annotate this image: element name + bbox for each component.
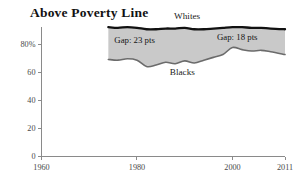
y-tick-label: 0 <box>31 152 35 161</box>
chart-canvas: Above Poverty Line 020406080% 1960198020… <box>0 0 297 179</box>
blacks-series-label: Blacks <box>170 67 195 77</box>
poverty-line-chart: Above Poverty Line 020406080% 1960198020… <box>0 0 297 179</box>
x-tick-labels: 1960198020002011 <box>33 163 293 172</box>
x-tick-label: 2011 <box>277 163 293 172</box>
gap-band-area <box>108 27 285 67</box>
x-tick-label: 1960 <box>33 163 49 172</box>
x-tick-marks <box>42 157 286 161</box>
x-tick-label: 2000 <box>224 163 240 172</box>
y-tick-marks <box>38 44 42 157</box>
x-axis: 1960198020002011 <box>33 157 293 172</box>
y-tick-label: 80% <box>20 40 35 49</box>
x-tick-label: 1980 <box>129 163 145 172</box>
y-tick-label: 20 <box>27 124 35 133</box>
chart-title: Above Poverty Line <box>30 5 148 20</box>
gap-annotation-left: Gap: 23 pts <box>114 35 155 45</box>
y-axis: 020406080% <box>20 27 41 161</box>
y-tick-label: 60 <box>27 68 35 77</box>
y-tick-label: 40 <box>27 96 35 105</box>
whites-series-label: Whites <box>174 11 200 21</box>
y-tick-labels: 020406080% <box>20 40 35 161</box>
gap-annotation-right: Gap: 18 pts <box>217 32 258 42</box>
